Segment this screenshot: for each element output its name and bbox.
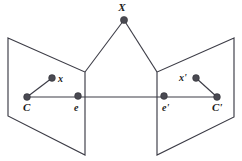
epipolar-geometry-figure: X x C e x' C' e' xyxy=(0,0,242,161)
label-left-image-point-x: x xyxy=(57,73,63,84)
label-scene-point-X: X xyxy=(117,1,126,13)
label-right-camera-centre-C-prime: C' xyxy=(212,101,222,113)
ray-scene-point-to-right-plane xyxy=(124,20,157,72)
epipolar-diagram-canvas: X x C e x' C' e' xyxy=(0,0,242,161)
ray-scene-point-to-left-plane xyxy=(85,20,124,72)
label-right-epipole-e-prime: e' xyxy=(162,102,169,113)
label-right-image-point-x-prime: x' xyxy=(178,72,187,83)
label-left-epipole-e: e xyxy=(74,102,79,113)
dot-left-camera-centre-C xyxy=(24,94,31,101)
dot-right-camera-centre-C-prime xyxy=(214,94,221,101)
dot-left-image-point-x xyxy=(49,75,56,82)
dot-left-epipole-e xyxy=(75,93,82,100)
ray-left-centre-to-image-point xyxy=(27,78,52,97)
label-left-camera-centre-C: C xyxy=(23,101,31,113)
ray-right-centre-to-image-point xyxy=(196,78,217,97)
dot-right-epipole-e-prime xyxy=(161,93,168,100)
dot-right-image-point-x-prime xyxy=(193,75,200,82)
dot-scene-point-X xyxy=(120,16,127,23)
